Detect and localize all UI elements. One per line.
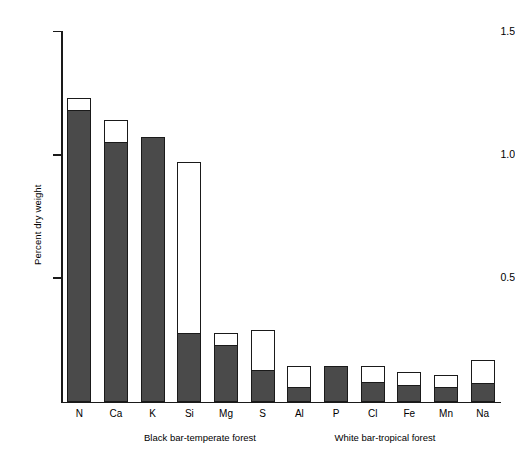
bar-group-mg xyxy=(214,31,238,402)
bar-group-fe xyxy=(397,31,421,402)
bar-temperate-s xyxy=(251,370,275,402)
x-tick-label-mg: Mg xyxy=(206,408,246,419)
x-tick-label-si: Si xyxy=(169,408,209,419)
plot-area xyxy=(61,31,501,402)
bar-temperate-ca xyxy=(104,142,128,402)
y-axis-title: Percent dry weight xyxy=(32,185,43,265)
bar-temperate-cl xyxy=(361,382,385,402)
x-tick-label-ca: Ca xyxy=(96,408,136,419)
x-tick-label-na: Na xyxy=(463,408,503,419)
bar-group-cl xyxy=(361,31,385,402)
caption-temperate: Black bar-temperate forest xyxy=(100,432,300,443)
bar-temperate-na xyxy=(471,383,495,402)
bar-group-k xyxy=(141,31,165,402)
bar-temperate-p xyxy=(324,366,348,402)
x-tick-label-n: N xyxy=(59,408,99,419)
x-tick-label-p: P xyxy=(316,408,356,419)
bar-temperate-n xyxy=(67,110,91,402)
bar-group-mn xyxy=(434,31,458,402)
bar-temperate-si xyxy=(177,333,201,402)
bar-group-al xyxy=(287,31,311,402)
bar-temperate-mn xyxy=(434,387,458,402)
bar-group-s xyxy=(251,31,275,402)
bar-group-si xyxy=(177,31,201,402)
bar-temperate-fe xyxy=(397,385,421,402)
bar-group-n xyxy=(67,31,91,402)
bar-group-na xyxy=(471,31,495,402)
x-tick-label-al: Al xyxy=(279,408,319,419)
x-tick-label-fe: Fe xyxy=(389,408,429,419)
x-tick-label-s: S xyxy=(243,408,283,419)
bar-group-p xyxy=(324,31,348,402)
bar-group-ca xyxy=(104,31,128,402)
x-tick-label-k: K xyxy=(133,408,173,419)
x-tick-label-cl: Cl xyxy=(353,408,393,419)
x-tick-label-mn: Mn xyxy=(426,408,466,419)
caption-tropical: White bar-tropical forest xyxy=(285,432,485,443)
bar-temperate-mg xyxy=(214,345,238,402)
bar-chart: 1.5 1.0 0.5 Percent dry weight Black bar… xyxy=(0,0,515,470)
bar-temperate-al xyxy=(287,387,311,402)
bar-temperate-k xyxy=(141,137,165,402)
